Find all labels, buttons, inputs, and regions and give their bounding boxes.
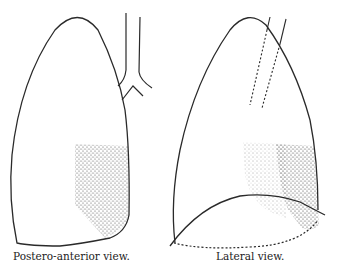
trachea-right [139,17,152,88]
trachea-dotted-left [250,30,267,105]
bronchus-fork [122,86,143,100]
pa-shaded-region [75,144,128,238]
trachea-left [118,13,126,86]
trachea-solid-right [280,19,286,44]
lateral-view [170,17,325,248]
trachea-dotted-right [262,44,280,108]
lung-diagram-figure: Postero-anterior view. Lateral view. [0,0,337,266]
postero-anterior-view [11,13,152,246]
diaphragm-dotted [174,220,318,248]
caption-postero-anterior: Postero-anterior view. [13,250,130,262]
caption-lateral: Lateral view. [216,250,284,262]
lung-illustrations [0,0,337,266]
